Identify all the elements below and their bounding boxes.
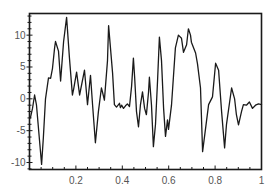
x-tick-label: 0.2 (69, 175, 83, 186)
y-tick-label: -10 (11, 157, 26, 168)
x-tick-label: 1 (259, 175, 265, 186)
x-axis-tick-labels: 0.20.40.60.81 (69, 175, 265, 186)
x-tick-label: 0.8 (208, 175, 222, 186)
y-tick-label: 0 (20, 93, 26, 104)
y-tick-label: -5 (17, 125, 26, 136)
y-tick-label: 5 (20, 61, 26, 72)
data-line (30, 17, 261, 164)
x-tick-label: 0.4 (115, 175, 129, 186)
y-axis-tick-labels: -10-50510 (11, 30, 26, 168)
line-chart: 0.20.40.60.81 -10-50510 (0, 0, 275, 189)
x-tick-label: 0.6 (162, 175, 176, 186)
y-tick-label: 10 (14, 30, 26, 41)
